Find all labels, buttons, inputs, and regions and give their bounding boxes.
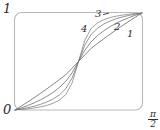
x-axis-max-label: π 2 [148, 110, 158, 129]
curve-label-3: 3 [95, 9, 101, 19]
label-3-pointer-icon [104, 13, 109, 14]
fraction-denominator: 2 [148, 120, 158, 129]
curve-label-2: 2 [114, 22, 120, 32]
origin-label: 0 [3, 103, 11, 116]
curve-label-4: 4 [81, 24, 87, 34]
pi-over-two-fraction: π 2 [148, 110, 158, 129]
curve-label-1: 1 [127, 29, 133, 39]
plot-canvas [0, 0, 160, 130]
chart-figure: 1 0 π 2 1 2 3 4 [0, 0, 160, 130]
curve-4 [15, 13, 142, 110]
y-axis-max-label: 1 [3, 2, 11, 15]
curve-group [15, 13, 142, 110]
